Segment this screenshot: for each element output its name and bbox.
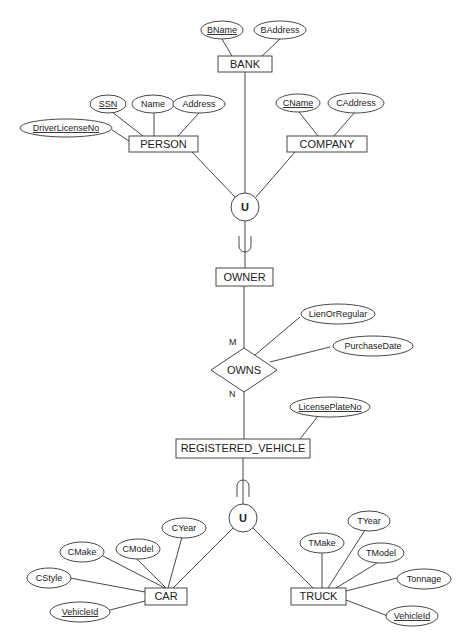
attribute-baddress[interactable]: BAddress [254, 21, 306, 39]
svg-text:U: U [239, 512, 247, 524]
svg-text:CYear: CYear [172, 523, 197, 533]
attribute-tyear[interactable]: TYear [348, 511, 390, 531]
svg-text:LicensePlateNo: LicensePlateNo [298, 402, 361, 412]
entity-car[interactable]: CAR [145, 588, 187, 605]
svg-text:OWNS: OWNS [227, 364, 261, 376]
connector-lines [70, 39, 397, 616]
svg-text:LienOrRegular: LienOrRegular [309, 309, 368, 319]
svg-text:TYear: TYear [357, 516, 381, 526]
svg-text:BAddress: BAddress [260, 25, 300, 35]
attribute-car-vehicleid[interactable]: VehicleId [50, 602, 110, 622]
attribute-tmake[interactable]: TMake [300, 533, 344, 553]
svg-text:CModel: CModel [122, 544, 153, 554]
entity-truck[interactable]: TRUCK [291, 588, 346, 605]
relationship-owns[interactable]: OWNS [211, 348, 277, 392]
entity-company[interactable]: COMPANY [287, 136, 367, 152]
entity-bank[interactable]: BANK [218, 56, 272, 72]
er-diagram: BName BAddress BANK SSN Name Address Dri… [0, 0, 460, 644]
svg-text:REGISTERED_VEHICLE: REGISTERED_VEHICLE [181, 442, 306, 454]
svg-text:PurchaseDate: PurchaseDate [344, 341, 401, 351]
attribute-address[interactable]: Address [173, 95, 225, 113]
svg-text:CAR: CAR [154, 590, 177, 602]
attribute-tonnage[interactable]: Tonnage [397, 569, 451, 589]
attribute-lienorregular[interactable]: LienOrRegular [301, 304, 375, 324]
svg-text:TMake: TMake [308, 538, 336, 548]
svg-text:COMPANY: COMPANY [300, 138, 355, 150]
attribute-cstyle[interactable]: CStyle [27, 568, 71, 588]
svg-text:DriverLicenseNo: DriverLicenseNo [33, 123, 100, 133]
svg-text:Tonnage: Tonnage [407, 574, 442, 584]
svg-text:CStyle: CStyle [36, 573, 63, 583]
attribute-truck-vehicleid[interactable]: VehicleId [386, 606, 438, 626]
svg-text:TRUCK: TRUCK [300, 590, 339, 602]
svg-text:CName: CName [283, 98, 314, 108]
attribute-cname[interactable]: CName [276, 94, 320, 112]
attribute-ssn[interactable]: SSN [90, 95, 126, 113]
svg-text:Name: Name [141, 99, 165, 109]
svg-text:PERSON: PERSON [140, 138, 187, 150]
svg-text:VehicleId: VehicleId [62, 607, 99, 617]
attribute-driverlicenseno[interactable]: DriverLicenseNo [20, 119, 112, 137]
svg-text:VehicleId: VehicleId [394, 611, 431, 621]
attribute-purchasedate[interactable]: PurchaseDate [333, 336, 413, 356]
svg-text:CAddress: CAddress [336, 98, 376, 108]
entity-owner[interactable]: OWNER [216, 268, 273, 286]
union-circle-vehicle: U [229, 504, 257, 532]
attribute-cmake[interactable]: CMake [60, 542, 104, 562]
attribute-cyear[interactable]: CYear [162, 518, 206, 538]
svg-text:OWNER: OWNER [223, 271, 265, 283]
entity-person[interactable]: PERSON [129, 136, 198, 152]
svg-text:U: U [241, 201, 249, 213]
attribute-caddress[interactable]: CAddress [328, 93, 384, 113]
svg-text:BName: BName [207, 25, 237, 35]
svg-text:TModel: TModel [366, 548, 396, 558]
svg-text:Address: Address [182, 99, 216, 109]
attribute-cmodel[interactable]: CModel [116, 539, 160, 559]
entity-registered-vehicle[interactable]: REGISTERED_VEHICLE [176, 439, 310, 458]
union-circle-owner: U [231, 193, 259, 221]
svg-text:BANK: BANK [230, 58, 261, 70]
attribute-bname[interactable]: BName [201, 21, 243, 39]
svg-text:SSN: SSN [99, 99, 118, 109]
attribute-licenseplateno[interactable]: LicensePlateNo [290, 397, 370, 417]
svg-text:CMake: CMake [68, 547, 97, 557]
attribute-tmodel[interactable]: TModel [358, 543, 404, 563]
attribute-name[interactable]: Name [132, 95, 174, 113]
cardinality-n: N [229, 389, 236, 399]
cardinality-m: M [229, 337, 237, 347]
